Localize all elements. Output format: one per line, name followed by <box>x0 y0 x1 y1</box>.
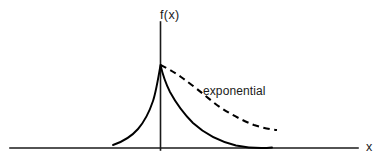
x-axis-label: x <box>366 141 372 154</box>
figure-container: f(x) x exponential <box>0 0 384 166</box>
exponential-curve-annotation: exponential <box>203 85 265 97</box>
y-axis-label: f(x) <box>160 9 180 22</box>
density-curve-solid <box>113 65 272 148</box>
plot-canvas <box>0 0 384 166</box>
